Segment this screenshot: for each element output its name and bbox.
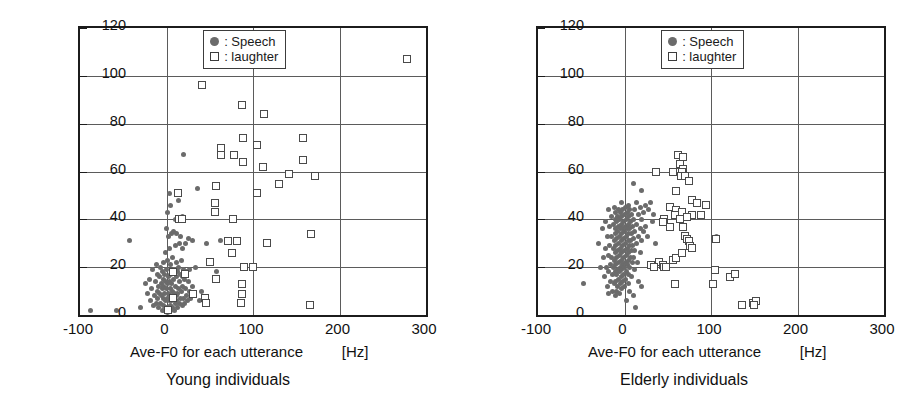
data-point-laughter bbox=[259, 163, 267, 171]
data-point-speech bbox=[186, 279, 191, 284]
data-point-laughter bbox=[275, 180, 283, 188]
data-point-laughter bbox=[211, 199, 219, 207]
data-point-speech bbox=[633, 305, 638, 310]
x-axis-unit-elderly: [Hz] bbox=[800, 343, 827, 360]
x-tick-label: -100 bbox=[48, 320, 108, 337]
data-point-laughter bbox=[181, 270, 189, 278]
data-point-speech bbox=[143, 281, 148, 286]
y-tick-label: 100 bbox=[86, 65, 126, 81]
data-point-speech bbox=[602, 274, 607, 279]
y-tick-label: 20 bbox=[86, 256, 126, 272]
data-point-laughter bbox=[299, 134, 307, 142]
x-tick-label: -100 bbox=[506, 320, 566, 337]
data-point-speech bbox=[204, 241, 209, 246]
x-tick-label: 100 bbox=[679, 320, 739, 337]
data-point-speech bbox=[181, 152, 186, 157]
data-point-laughter bbox=[712, 235, 720, 243]
data-point-speech bbox=[643, 224, 648, 229]
data-point-laughter bbox=[217, 151, 225, 159]
y-axis-title-young: SD-F0 for each utterance [Hz] bbox=[6, 0, 26, 52]
data-point-speech bbox=[167, 246, 172, 251]
plot-area-young bbox=[78, 26, 428, 317]
data-point-laughter bbox=[693, 199, 701, 207]
data-point-laughter bbox=[662, 263, 670, 271]
panel-young: SD-F0 for each utterance [Hz] : Speech :… bbox=[0, 0, 456, 407]
data-point-speech bbox=[190, 238, 195, 243]
data-point-laughter bbox=[228, 249, 236, 257]
x-tick-label: 300 bbox=[394, 320, 454, 337]
data-point-speech bbox=[632, 229, 637, 234]
data-point-speech bbox=[639, 284, 644, 289]
data-point-laughter bbox=[731, 270, 739, 278]
gridline-vertical bbox=[340, 28, 341, 315]
data-point-speech bbox=[653, 241, 658, 246]
data-point-laughter bbox=[174, 189, 182, 197]
data-point-speech bbox=[629, 274, 634, 279]
speech-marker-icon bbox=[210, 37, 219, 46]
legend-item-laughter: : laughter bbox=[210, 49, 278, 64]
data-point-speech bbox=[598, 265, 603, 270]
data-point-laughter bbox=[202, 299, 210, 307]
data-point-speech bbox=[638, 250, 643, 255]
data-point-laughter bbox=[239, 158, 247, 166]
data-point-laughter bbox=[237, 299, 245, 307]
legend-label-laughter: : laughter bbox=[682, 49, 736, 64]
figure-container: SD-F0 for each utterance [Hz] : Speech :… bbox=[0, 0, 913, 407]
data-point-speech bbox=[127, 238, 132, 243]
data-point-laughter bbox=[685, 177, 693, 185]
y-tick-label: 80 bbox=[86, 113, 126, 129]
legend-label-speech: : Speech bbox=[224, 34, 275, 49]
data-point-speech bbox=[639, 238, 644, 243]
y-tick-label: 60 bbox=[544, 161, 584, 177]
data-point-speech bbox=[218, 238, 223, 243]
data-point-laughter bbox=[671, 280, 679, 288]
data-point-speech bbox=[617, 291, 622, 296]
data-point-speech bbox=[149, 286, 154, 291]
data-point-speech bbox=[193, 265, 198, 270]
data-point-laughter bbox=[650, 263, 658, 271]
panel-elderly: SD-F0 for each utterance [Hz] : Speech :… bbox=[456, 0, 912, 407]
data-point-speech bbox=[648, 200, 653, 205]
y-tick-label: 0 bbox=[86, 304, 126, 320]
data-point-laughter bbox=[211, 208, 219, 216]
gridline-vertical bbox=[798, 28, 799, 315]
data-point-laughter bbox=[299, 156, 307, 164]
legend-young: : Speech : laughter bbox=[203, 30, 286, 69]
panel-caption-elderly: Elderly individuals bbox=[456, 371, 912, 389]
data-point-speech bbox=[645, 234, 650, 239]
legend-elderly: : Speech : laughter bbox=[661, 30, 744, 69]
y-axis-title-elderly: SD-F0 for each utterance [Hz] bbox=[458, 0, 478, 52]
data-point-speech bbox=[199, 289, 204, 294]
data-point-speech bbox=[145, 291, 150, 296]
data-point-laughter bbox=[750, 301, 758, 309]
data-point-laughter bbox=[249, 263, 257, 271]
legend-item-speech: : Speech bbox=[668, 34, 736, 49]
panel-caption-young: Young individuals bbox=[0, 371, 456, 389]
x-tick-label: 100 bbox=[221, 320, 281, 337]
data-point-laughter bbox=[403, 55, 411, 63]
speech-marker-icon bbox=[668, 37, 677, 46]
data-point-speech bbox=[650, 219, 655, 224]
x-tick-label: 200 bbox=[308, 320, 368, 337]
data-point-speech bbox=[168, 203, 173, 208]
data-point-speech bbox=[179, 258, 184, 263]
data-point-laughter bbox=[198, 81, 206, 89]
data-point-laughter bbox=[239, 134, 247, 142]
data-point-laughter bbox=[164, 306, 172, 314]
y-tick-label: 40 bbox=[544, 208, 584, 224]
data-point-speech bbox=[646, 207, 651, 212]
data-point-laughter bbox=[169, 268, 177, 276]
x-tick-label: 0 bbox=[135, 320, 195, 337]
data-point-speech bbox=[147, 277, 152, 282]
data-point-speech bbox=[651, 212, 656, 217]
data-point-speech bbox=[195, 186, 200, 191]
data-point-speech bbox=[167, 191, 172, 196]
data-point-speech bbox=[624, 298, 629, 303]
data-point-speech bbox=[150, 267, 155, 272]
data-point-speech bbox=[214, 269, 219, 274]
x-axis-title-elderly: Ave-F0 for each utterance bbox=[588, 343, 761, 360]
data-point-speech bbox=[606, 207, 611, 212]
data-point-laughter bbox=[169, 294, 177, 302]
data-point-laughter bbox=[212, 182, 220, 190]
data-point-speech bbox=[639, 217, 644, 222]
